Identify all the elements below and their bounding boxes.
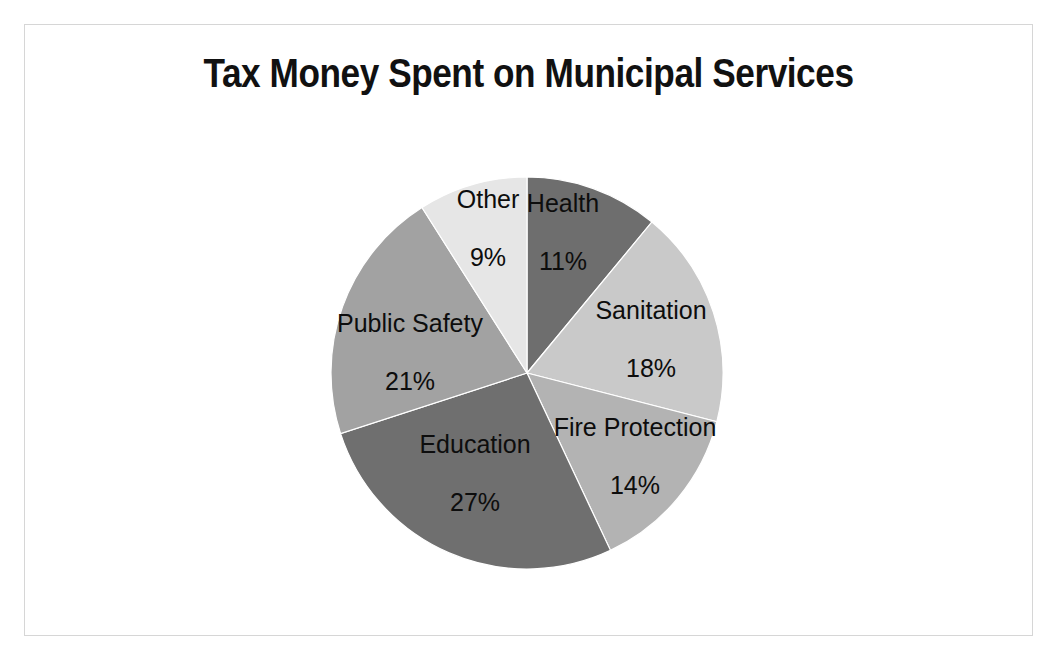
slice-label-name: Public Safety <box>337 309 483 338</box>
pie-chart: Health 11% Sanitation 18% Fire Protectio… <box>25 25 1034 637</box>
chart-figure-frame: Tax Money Spent on Municipal Services He… <box>24 24 1033 636</box>
slice-label-name: Other <box>457 185 520 214</box>
slice-label-value: 27% <box>419 488 530 517</box>
slice-label-value: 9% <box>457 243 520 272</box>
slice-label-value: 21% <box>337 367 483 396</box>
slice-label-other: Other 9% <box>457 156 520 301</box>
slice-label-name: Health <box>527 189 599 218</box>
slice-label-name: Fire Protection <box>554 413 717 442</box>
slice-label-health: Health 11% <box>527 160 599 305</box>
slice-label-value: 14% <box>554 471 717 500</box>
slice-label-public-safety: Public Safety 21% <box>337 280 483 425</box>
slice-label-value: 11% <box>527 247 599 276</box>
slice-label-name: Education <box>419 430 530 459</box>
slice-label-value: 18% <box>595 354 706 383</box>
slice-label-fire-protection: Fire Protection 14% <box>554 384 717 529</box>
slice-label-name: Sanitation <box>595 296 706 325</box>
